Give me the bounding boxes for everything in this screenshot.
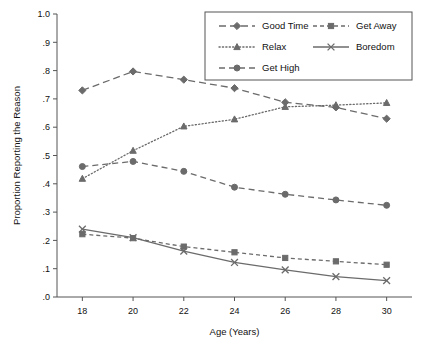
legend-label: Boredom: [356, 41, 395, 52]
y-axis-ticks: 1.0.9.8.7.6.5.4.3.2.1.0: [37, 9, 57, 302]
y-tick-label: .3: [42, 207, 50, 217]
data-point-marker: [79, 175, 85, 181]
data-point-marker: [333, 197, 339, 203]
y-tick-label: .6: [42, 122, 50, 132]
series-get-high: [79, 158, 389, 208]
series-line: [82, 161, 386, 205]
series-relax: [79, 99, 390, 181]
y-tick-label: .5: [42, 151, 50, 161]
data-point-marker: [181, 168, 187, 174]
data-point-marker: [180, 76, 187, 83]
data-point-marker: [232, 250, 237, 255]
data-point-marker: [79, 164, 85, 170]
data-point-marker: [283, 255, 288, 260]
y-tick-label: .2: [42, 236, 50, 246]
y-tick-label: .0: [42, 292, 50, 302]
chart-container: 1.0.9.8.7.6.5.4.3.2.1.018202224262830Age…: [0, 0, 421, 354]
y-tick-label: .7: [42, 94, 50, 104]
data-point-marker: [282, 191, 288, 197]
data-point-marker: [383, 115, 390, 122]
data-point-marker: [384, 202, 390, 208]
line-chart: 1.0.9.8.7.6.5.4.3.2.1.018202224262830Age…: [0, 0, 421, 354]
legend-marker: [234, 65, 240, 71]
y-tick-label: .4: [42, 179, 50, 189]
x-tick-label: 24: [229, 306, 239, 316]
chart-legend: Good TimeGet AwayRelaxBoredomGet High: [205, 12, 412, 80]
y-tick-label: .8: [42, 66, 50, 76]
y-tick-label: 1.0: [37, 9, 50, 19]
x-tick-label: 28: [331, 306, 341, 316]
x-tick-label: 22: [179, 306, 189, 316]
data-point-marker: [130, 147, 136, 153]
data-point-marker: [384, 262, 389, 267]
legend-label: Good Time: [262, 20, 308, 31]
series-line: [82, 103, 386, 179]
x-axis-title: Age (Years): [210, 326, 260, 337]
x-tick-label: 30: [382, 306, 392, 316]
data-point-marker: [231, 85, 238, 92]
x-axis-ticks: 18202224262830: [77, 297, 391, 316]
y-axis-title: Proportion Reporting the Reason: [11, 86, 22, 225]
data-point-marker: [79, 87, 86, 94]
x-tick-label: 18: [77, 306, 87, 316]
data-point-marker: [80, 232, 85, 237]
data-point-marker: [129, 68, 136, 75]
data-point-marker: [333, 259, 338, 264]
legend-label: Get Away: [356, 20, 397, 31]
legend-label: Relax: [262, 41, 287, 52]
data-point-marker: [130, 158, 136, 164]
legend-label: Get High: [262, 62, 300, 73]
y-tick-label: .1: [42, 264, 50, 274]
x-tick-label: 20: [128, 306, 138, 316]
x-tick-label: 26: [280, 306, 290, 316]
y-tick-label: .9: [42, 38, 50, 48]
legend-marker: [328, 23, 333, 28]
data-point-marker: [232, 184, 238, 190]
